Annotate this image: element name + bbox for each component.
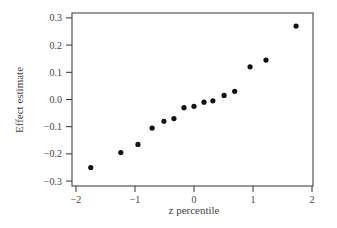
data-point — [181, 105, 186, 110]
data-point — [88, 165, 93, 170]
y-tick-label: −0.3 — [44, 176, 62, 187]
data-point — [210, 98, 215, 103]
x-tick-label: 1 — [251, 194, 256, 205]
data-point — [221, 93, 226, 98]
data-point — [161, 119, 166, 124]
x-axis: −2−1012 — [71, 186, 315, 205]
y-tick-label: 0.2 — [50, 40, 63, 51]
data-point — [191, 104, 196, 109]
x-tick-label: −1 — [130, 194, 141, 205]
data-point — [232, 89, 237, 94]
data-point — [171, 116, 176, 121]
scatter-chart: 0.30.20.10.0−0.1−0.2−0.3 −2−1012 z perce… — [0, 0, 337, 228]
data-point — [293, 23, 298, 28]
x-axis-title: z percentile — [169, 204, 220, 216]
y-tick-label: 0.1 — [50, 67, 63, 78]
y-tick-label: −0.2 — [44, 148, 62, 159]
y-tick-label: 0.3 — [50, 12, 63, 23]
y-tick-label: −0.1 — [44, 121, 62, 132]
data-point — [150, 125, 155, 130]
plot-frame — [72, 13, 313, 186]
data-point — [263, 57, 268, 62]
x-tick-label: 2 — [310, 194, 315, 205]
data-point — [247, 64, 252, 69]
y-axis: 0.30.20.10.0−0.1−0.2−0.3 — [44, 12, 72, 186]
y-tick-label: 0.0 — [50, 94, 63, 105]
y-axis-title: Effect estimate — [13, 67, 25, 133]
data-point — [135, 142, 140, 147]
data-point — [201, 100, 206, 105]
data-point — [118, 150, 123, 155]
data-points — [88, 23, 299, 170]
x-tick-label: −2 — [71, 194, 82, 205]
